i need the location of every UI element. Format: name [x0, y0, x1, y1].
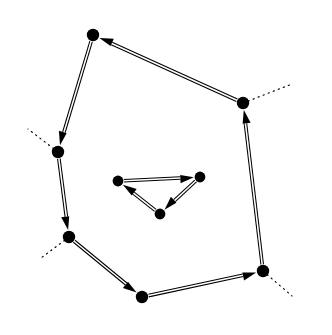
directed-edge-layer [58, 38, 264, 297]
inner-node-m-bottom[interactable] [155, 209, 166, 220]
edge-shaft [65, 42, 92, 133]
node-n-top[interactable] [87, 29, 99, 41]
edge-shaft [75, 240, 127, 283]
arrowhead-icon [243, 110, 251, 124]
node-n-left-lower[interactable] [63, 231, 75, 243]
edge-shaft [244, 124, 261, 265]
arrowhead-icon [180, 175, 194, 183]
edge-e-mbottom-mleft [123, 185, 156, 212]
edge-shaft [124, 177, 180, 180]
edge-shaft [149, 277, 243, 297]
graph-canvas [0, 0, 332, 335]
dotted-stub-s-right-upper [243, 84, 292, 103]
edge-shaft [111, 45, 236, 102]
edge-e-mright-mbottom [165, 180, 197, 210]
node-n-right-upper[interactable] [237, 97, 249, 109]
node-n-bottom[interactable] [136, 291, 148, 303]
inner-node-m-right[interactable] [195, 172, 206, 183]
edge-shaft [124, 179, 180, 182]
edge-shaft [133, 194, 155, 211]
edge-e-rightupper-top [99, 38, 237, 102]
edge-e-leftlower-bottom [73, 240, 136, 292]
edge-e-bottom-bottomright [148, 272, 256, 296]
arrowhead-icon [59, 131, 67, 145]
edge-shaft [247, 123, 264, 264]
node-n-left-upper[interactable] [52, 146, 64, 158]
arrowhead-icon [123, 282, 137, 293]
node-n-bottom-right[interactable] [257, 265, 269, 277]
inner-node-m-left[interactable] [113, 176, 124, 187]
edge-shaft [148, 274, 242, 294]
edge-shaft [73, 242, 125, 285]
edge-shaft [63, 41, 90, 132]
edge-e-leftupper-leftlower [58, 158, 70, 230]
arrowhead-icon [242, 272, 256, 280]
edge-e-top-leftupper [59, 41, 92, 145]
edge-shaft [134, 192, 156, 209]
edge-shaft [174, 180, 195, 200]
graph-figure [0, 0, 332, 335]
edge-shaft [112, 42, 237, 99]
arrowhead-icon [123, 185, 137, 196]
edge-e-mleft-mright [124, 175, 194, 183]
edge-shaft [175, 182, 196, 202]
arrowhead-icon [61, 216, 69, 230]
edge-e-bottomright-rightupper [243, 110, 264, 265]
